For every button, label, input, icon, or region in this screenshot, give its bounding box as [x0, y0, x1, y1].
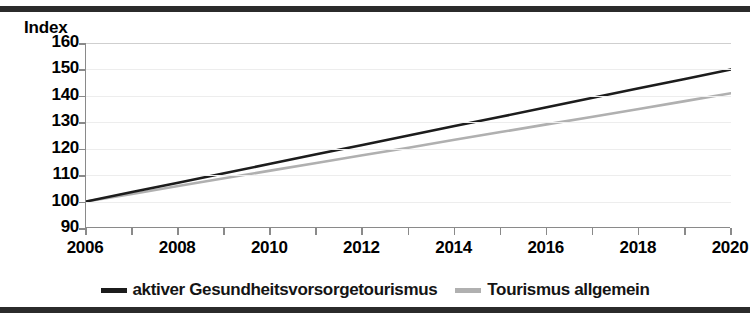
y-tick: [79, 69, 86, 71]
x-tick: [315, 228, 317, 235]
x-tick: [454, 228, 456, 235]
x-axis-ticks: [85, 228, 731, 236]
series-lines: [86, 43, 731, 228]
gridline: [86, 175, 731, 176]
y-tick: [79, 122, 86, 124]
x-tick: [730, 228, 732, 235]
series-line: [86, 93, 731, 201]
x-tick-label: 2010: [224, 238, 314, 258]
x-tick-label: 2012: [316, 238, 406, 258]
x-tick: [131, 228, 133, 235]
gridline: [86, 122, 731, 123]
chart-legend: aktiver GesundheitsvorsorgetourismusTour…: [0, 277, 750, 303]
y-tick: [79, 202, 86, 204]
x-tick: [361, 228, 363, 235]
x-tick-label: 2014: [409, 238, 499, 258]
x-axis-tick-labels: 20062008201020122014201620182020: [0, 238, 750, 264]
gridline: [86, 96, 731, 97]
legend-label: aktiver Gesundheitsvorsorgetourismus: [133, 280, 438, 300]
y-tick-label: 100: [7, 191, 79, 211]
legend-item: Tourismus allgemein: [455, 280, 649, 300]
x-tick: [223, 228, 225, 235]
gridline: [86, 69, 731, 70]
y-tick-label: 150: [7, 58, 79, 78]
x-tick: [592, 228, 594, 235]
plot-top-border: [86, 43, 731, 44]
y-tick: [79, 96, 86, 98]
y-tick-label: 130: [7, 111, 79, 131]
x-tick-label: 2018: [593, 238, 683, 258]
y-tick: [79, 43, 86, 45]
legend-item: aktiver Gesundheitsvorsorgetourismus: [101, 280, 438, 300]
x-tick: [546, 228, 548, 235]
x-tick: [269, 228, 271, 235]
y-tick-label: 120: [7, 138, 79, 158]
x-tick: [500, 228, 502, 235]
bottom-rule-divider: [0, 307, 750, 313]
x-tick: [408, 228, 410, 235]
x-tick: [85, 228, 87, 235]
y-tick-label: 90: [7, 217, 79, 237]
series-line: [86, 69, 731, 201]
legend-label: Tourismus allgemein: [487, 280, 649, 300]
y-tick: [79, 149, 86, 151]
x-tick-label: 2016: [501, 238, 591, 258]
x-tick-label: 2006: [40, 238, 130, 258]
legend-line-icon: [101, 288, 127, 293]
y-tick-label: 140: [7, 85, 79, 105]
x-tick-label: 2020: [685, 238, 750, 258]
x-tick: [638, 228, 640, 235]
y-tick-label: 160: [7, 32, 79, 52]
plot-wrapper: 16015014013012011010090 2006200820102012…: [0, 0, 750, 322]
chart-figure: Index 16015014013012011010090 2006200820…: [0, 0, 750, 322]
legend-line-icon: [455, 288, 481, 293]
plot-area: [85, 43, 730, 228]
y-tick: [79, 175, 86, 177]
x-tick: [684, 228, 686, 235]
y-axis-tick-labels: 16015014013012011010090: [0, 0, 79, 322]
x-tick-label: 2008: [132, 238, 222, 258]
x-tick: [177, 228, 179, 235]
gridline: [86, 202, 731, 203]
y-tick-label: 110: [7, 164, 79, 184]
gridline: [86, 149, 731, 150]
